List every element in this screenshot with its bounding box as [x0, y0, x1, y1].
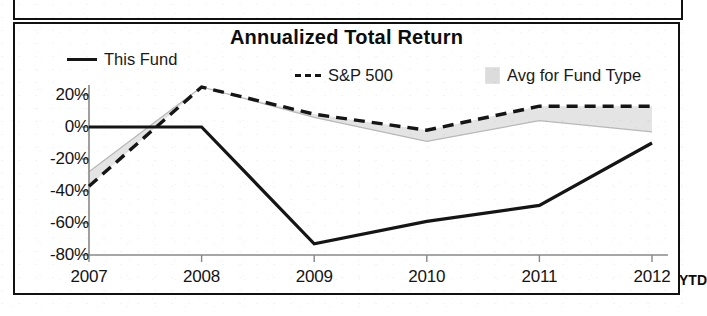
x-axis-ytd-label: YTD [679, 272, 707, 288]
annualized-total-return-panel: Annualized Total Return This Fund S&P 50… [13, 22, 680, 295]
previous-panel-bottom-edge [13, 0, 683, 20]
x-axis-tick-label: 2007 [54, 267, 124, 287]
x-axis-tick-label: 2012 [617, 267, 687, 287]
x-axis-tick-labels: 200720082009201020112012YTD [15, 24, 682, 297]
x-axis-tick-label: 2010 [392, 267, 462, 287]
x-axis-tick-label: 2009 [279, 267, 349, 287]
x-axis-tick-label: 2008 [167, 267, 237, 287]
x-axis-tick-label: 2011 [504, 267, 574, 287]
plot-area: 20%0%-20%-40%-60%-80% 200720082009201020… [15, 24, 682, 297]
